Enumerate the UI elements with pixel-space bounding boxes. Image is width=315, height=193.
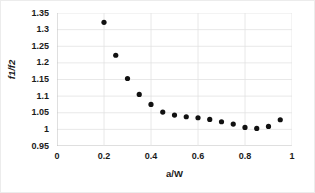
x-axis-tick-labels: 00.20.40.60.81: [0, 151, 315, 165]
data-point: [184, 114, 189, 119]
data-point: [195, 115, 200, 120]
data-point: [148, 102, 153, 107]
data-point: [219, 119, 224, 124]
y-axis-tick-label: 1.3: [36, 25, 49, 34]
y-axis-tick-label: 1.35: [31, 9, 49, 18]
data-point: [101, 20, 106, 25]
x-axis-tick-label: 0.4: [131, 151, 171, 161]
x-axis-title: a/W: [57, 168, 292, 179]
y-axis-tick-label: 1: [44, 125, 49, 134]
x-axis-tick-label: 0.8: [225, 151, 265, 161]
y-axis-tick-label: 1.05: [31, 108, 49, 117]
data-point: [254, 126, 259, 131]
data-point: [278, 117, 283, 122]
y-axis-tick-label: 0.95: [31, 142, 49, 151]
y-axis-tick-label: 1.25: [31, 42, 49, 51]
scatter-chart: f1/f2 0.9511.051.11.151.21.251.31.35 00.…: [0, 0, 315, 193]
data-point: [207, 117, 212, 122]
x-axis-tick-label: 1: [272, 151, 312, 161]
data-point: [160, 109, 165, 114]
data-point: [231, 121, 236, 126]
x-axis-tick-label: 0.6: [178, 151, 218, 161]
plot-area: [57, 13, 292, 146]
y-axis-tick-label: 1.2: [36, 58, 49, 67]
data-point: [242, 125, 247, 130]
data-point: [125, 76, 130, 81]
plot-svg: [57, 13, 292, 146]
data-point: [137, 92, 142, 97]
data-point-group: [101, 20, 282, 131]
y-axis-tick-label: 1.15: [31, 75, 49, 84]
x-axis-tick-label: 0.2: [84, 151, 124, 161]
data-point: [266, 124, 271, 129]
y-axis-tick-label: 1.1: [36, 92, 49, 101]
x-axis-tick-label: 0: [37, 151, 77, 161]
data-point: [172, 112, 177, 117]
data-point: [113, 53, 118, 58]
